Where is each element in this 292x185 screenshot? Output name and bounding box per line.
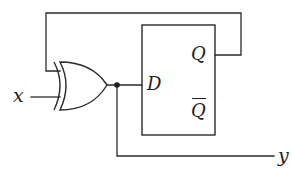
q-bar-text: Q [191, 100, 206, 121]
q-output-label: Q [191, 45, 206, 63]
output-y-label: y [278, 146, 289, 165]
q-bar-output-label: Q [191, 102, 206, 120]
feedback-wire [46, 13, 241, 71]
xor-gate-body [60, 62, 107, 110]
input-x-label: x [13, 86, 24, 105]
d-input-label: D [147, 75, 161, 93]
circuit-drawing [0, 0, 292, 185]
xor-extra-curve [54, 62, 60, 110]
overline [192, 98, 206, 99]
circuit-diagram: x D Q Q y [0, 0, 292, 185]
